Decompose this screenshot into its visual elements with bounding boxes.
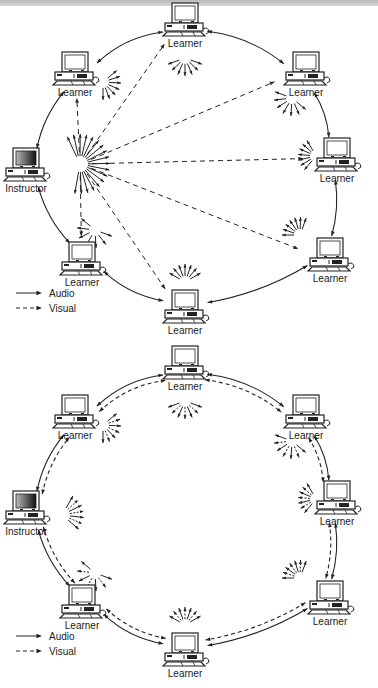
learner-computer-icon bbox=[308, 238, 354, 271]
learner-label: Learner bbox=[58, 430, 93, 441]
learner-label: Learner bbox=[168, 668, 203, 679]
diagram-peer-ring: InstructorLearnerLearnerLearnerLearnerLe… bbox=[0, 343, 378, 688]
signal-burst-icon bbox=[168, 403, 202, 419]
signal-burst-icon bbox=[169, 264, 200, 279]
learner-computer-icon bbox=[163, 3, 209, 36]
instructor-label: Instructor bbox=[5, 183, 47, 194]
learner-label: Learner bbox=[168, 38, 203, 49]
learner-computer-icon bbox=[53, 52, 99, 85]
signal-burst-icon bbox=[66, 496, 84, 529]
legend-audio-label: Audio bbox=[49, 631, 75, 642]
audio-link bbox=[37, 92, 64, 149]
audio-link bbox=[332, 523, 337, 579]
legend-audio-label: Audio bbox=[49, 288, 75, 299]
audio-link bbox=[38, 187, 69, 243]
learner-label: Learner bbox=[168, 325, 203, 336]
visual-link bbox=[205, 380, 282, 412]
audio-link bbox=[104, 614, 163, 643]
audio-link bbox=[97, 32, 163, 63]
legend: AudioVisual bbox=[16, 631, 76, 657]
signal-burst-icon bbox=[168, 60, 202, 76]
signal-burst-icon bbox=[282, 217, 306, 236]
instructor-computer-icon bbox=[4, 148, 50, 181]
visual-link bbox=[326, 523, 331, 579]
learner-computer-icon bbox=[53, 395, 99, 428]
audio-link bbox=[208, 265, 308, 302]
diagram-instructor-broadcast: InstructorLearnerLearnerLearnerLearnerLe… bbox=[0, 0, 378, 345]
learner-label: Learner bbox=[320, 516, 355, 527]
instructor-computer-icon bbox=[4, 491, 50, 524]
learner-label: Learner bbox=[65, 277, 100, 288]
learner-computer-icon bbox=[308, 581, 354, 614]
visual-broadcast-line bbox=[77, 98, 80, 152]
learner-label: Learner bbox=[313, 616, 348, 627]
signal-burst-icon bbox=[282, 560, 306, 579]
learner-computer-icon bbox=[60, 585, 106, 618]
legend: AudioVisual bbox=[16, 288, 76, 314]
learner-computer-icon bbox=[163, 633, 209, 666]
signal-burst-icon bbox=[67, 134, 110, 194]
learner-computer-icon bbox=[60, 242, 106, 275]
audio-link bbox=[38, 530, 69, 586]
audio-link bbox=[208, 608, 308, 645]
learner-label: Learner bbox=[168, 381, 203, 392]
legend-visual-label: Visual bbox=[49, 303, 76, 314]
learner-computer-icon bbox=[315, 138, 361, 171]
instructor-label: Instructor bbox=[5, 526, 47, 537]
learner-label: Learner bbox=[320, 173, 355, 184]
signal-burst-icon bbox=[169, 607, 200, 622]
legend-visual-label: Visual bbox=[49, 646, 76, 657]
visual-link bbox=[308, 438, 323, 483]
visual-broadcast-line bbox=[91, 82, 274, 160]
learner-label: Learner bbox=[289, 87, 324, 98]
audio-link bbox=[104, 271, 163, 300]
signal-burst-icon bbox=[298, 483, 313, 512]
learner-computer-icon bbox=[284, 52, 330, 85]
learner-computer-icon bbox=[163, 290, 209, 323]
audio-link bbox=[314, 93, 329, 138]
learner-computer-icon bbox=[284, 395, 330, 428]
audio-link bbox=[207, 31, 284, 63]
visual-broadcast-line bbox=[92, 159, 303, 164]
visual-broadcast-line bbox=[91, 168, 298, 249]
signal-burst-icon bbox=[298, 140, 313, 169]
signal-burst-icon bbox=[102, 70, 121, 100]
learner-label: Learner bbox=[58, 87, 93, 98]
learner-label: Learner bbox=[313, 273, 348, 284]
audio-link bbox=[207, 374, 284, 406]
learner-computer-icon bbox=[163, 346, 209, 379]
learner-label: Learner bbox=[289, 430, 324, 441]
audio-link bbox=[332, 180, 337, 236]
learner-computer-icon bbox=[315, 481, 361, 514]
signal-burst-icon bbox=[102, 413, 121, 443]
learner-label: Learner bbox=[65, 620, 100, 631]
audio-link bbox=[37, 435, 64, 492]
audio-link bbox=[314, 436, 329, 481]
visual-link bbox=[206, 603, 306, 640]
